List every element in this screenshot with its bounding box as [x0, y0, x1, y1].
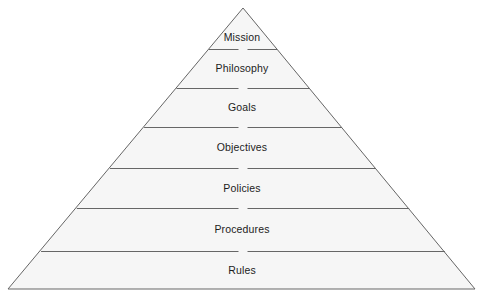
pyramid-tier-label-mission: Mission [0, 31, 484, 43]
pyramid-tier-label-objectives: Objectives [0, 141, 484, 153]
pyramid-tier-label-rules: Rules [0, 264, 484, 276]
pyramid-diagram: MissionPhilosophyGoalsObjectivesPolicies… [0, 0, 484, 301]
pyramid-tier-label-policies: Policies [0, 182, 484, 194]
pyramid-tier-label-procedures: Procedures [0, 223, 484, 235]
pyramid-tier-label-goals: Goals [0, 101, 484, 113]
pyramid-tier-label-philosophy: Philosophy [0, 62, 484, 74]
